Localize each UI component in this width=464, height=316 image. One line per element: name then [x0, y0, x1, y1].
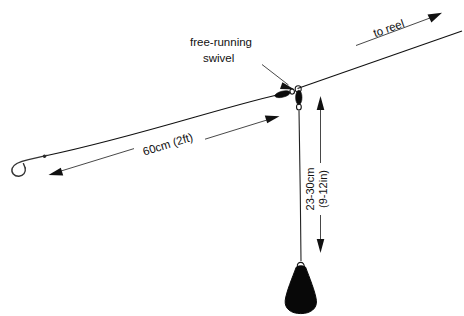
leader-dim-line-left	[57, 149, 135, 173]
main-line-to-reel	[298, 31, 463, 89]
weight-drop-line	[299, 111, 301, 262]
drop-length-label-imperial: (9-12in)	[317, 170, 329, 208]
hook-bend	[12, 155, 47, 176]
hook-point	[23, 164, 25, 168]
swivel-label-line2: swivel	[203, 52, 234, 64]
free-running-swivel	[274, 86, 302, 110]
lead-weight	[285, 262, 316, 313]
rig-illustration: 60cm (2ft)	[0, 0, 464, 316]
swivel-label-line1: free-running	[190, 36, 252, 48]
swivel-body	[296, 90, 302, 104]
fishing-rig-diagram: 60cm (2ft)	[0, 0, 464, 316]
leader-dim-arrowhead-right	[265, 115, 280, 123]
leader-length-label: 60cm (2ft)	[141, 131, 194, 158]
leader-dim-line-right	[205, 119, 272, 140]
swivel-callout-arrowhead	[280, 82, 295, 89]
to-reel-arrowhead	[428, 13, 443, 23]
drop-dim-arrowhead-down	[317, 239, 325, 253]
drop-dim-arrowhead-up	[317, 96, 325, 110]
swivel-callout-line	[262, 65, 289, 86]
swivel-sliding-barrel	[274, 89, 291, 99]
to-reel-label: to reel	[372, 17, 406, 39]
leader-dim-arrowhead-left	[49, 168, 64, 176]
drop-length-label-metric: 23-30cm	[304, 168, 316, 211]
weight-body	[285, 266, 316, 314]
fish-hook	[12, 155, 47, 177]
